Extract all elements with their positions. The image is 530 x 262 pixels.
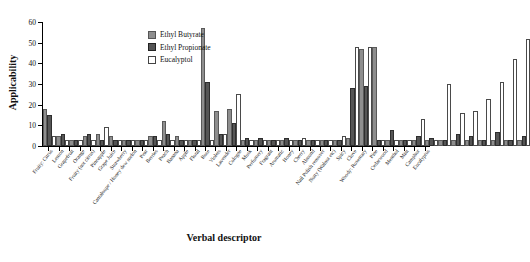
bar-group	[56, 22, 69, 146]
bar-group	[359, 22, 372, 146]
bar-group	[43, 22, 56, 146]
bar-group	[267, 22, 280, 146]
y-tick-label: 30	[29, 80, 37, 89]
legend-item: Ethyl Propionate	[148, 43, 211, 52]
bar-group	[412, 22, 425, 146]
legend-swatch-icon	[148, 56, 156, 64]
y-tick-label: 50	[29, 38, 37, 47]
legend-label: Eucalyptol	[160, 55, 193, 64]
bar-group	[241, 22, 254, 146]
y-tick	[38, 146, 42, 147]
y-tick	[38, 43, 42, 44]
y-tick	[38, 84, 42, 85]
legend: Ethyl Butyrate Ethyl Propionate Eucalypt…	[148, 30, 211, 68]
bar-group	[122, 22, 135, 146]
bar-group	[69, 22, 82, 146]
bar	[372, 47, 376, 146]
x-axis-title: Verbal descriptor	[0, 232, 448, 243]
y-tick-label: 20	[29, 100, 37, 109]
legend-item: Ethyl Butyrate	[148, 30, 211, 39]
y-tick	[38, 125, 42, 126]
x-axis-category-labels: Fruity: CitrusLemonGrapefruitOrangeFruit…	[43, 148, 430, 210]
bar-group	[478, 22, 491, 146]
bar-group	[333, 22, 346, 146]
legend-item: Eucalyptol	[148, 55, 211, 64]
y-tick	[38, 22, 42, 23]
bar-group	[280, 22, 293, 146]
bar-group	[491, 22, 504, 146]
y-axis-title-text: Applicability	[8, 54, 19, 110]
bar-group	[135, 22, 148, 146]
bar-series-container	[43, 22, 430, 146]
bar-group	[438, 22, 451, 146]
bar-group	[83, 22, 96, 146]
bar-group	[214, 22, 227, 146]
x-category-label: Spicy	[335, 148, 347, 161]
y-tick	[38, 63, 42, 64]
y-tick-label: 60	[29, 18, 37, 27]
legend-swatch-icon	[148, 31, 156, 39]
bar-group	[399, 22, 412, 146]
bar-group	[306, 22, 319, 146]
y-tick-label: 40	[29, 59, 37, 68]
legend-label: Ethyl Butyrate	[160, 30, 204, 39]
bar-group	[372, 22, 385, 146]
bar-group	[227, 22, 240, 146]
bar	[526, 39, 530, 146]
y-tick-label: 0	[32, 142, 36, 151]
bar-group	[254, 22, 267, 146]
y-tick-label: 10	[29, 121, 37, 130]
bar-group	[517, 22, 530, 146]
bar-group	[96, 22, 109, 146]
y-tick	[38, 105, 42, 106]
bar-group	[109, 22, 122, 146]
y-axis-title: Applicability	[2, 18, 24, 146]
bar-group	[385, 22, 398, 146]
legend-swatch-icon	[148, 43, 156, 51]
legend-label: Ethyl Propionate	[160, 43, 211, 52]
bar-group	[293, 22, 306, 146]
plot-area: 0102030405060	[42, 22, 430, 147]
bar-group	[425, 22, 438, 146]
bar-group	[320, 22, 333, 146]
bar-group	[346, 22, 359, 146]
bar	[205, 82, 209, 146]
bar-group	[465, 22, 478, 146]
x-category-label: Floral	[188, 148, 201, 162]
x-category-label: Fruity: Citrus	[31, 148, 54, 175]
bar-group	[504, 22, 517, 146]
x-category-label: Apple	[177, 148, 190, 162]
bar-group	[451, 22, 464, 146]
